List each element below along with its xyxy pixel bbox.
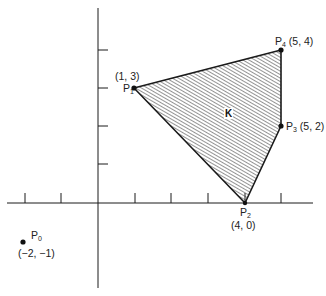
point-p3 bbox=[278, 123, 283, 128]
region-k-polygon bbox=[134, 50, 281, 203]
point-p0-coord: (−2, −1) bbox=[18, 248, 55, 259]
point-p1-coord: (1, 3) bbox=[115, 71, 140, 82]
region-k-label: K bbox=[224, 108, 233, 119]
point-p0-name: P0 bbox=[31, 230, 42, 242]
point-p2-coord: (4, 0) bbox=[231, 220, 256, 231]
y-ticks bbox=[98, 50, 108, 164]
point-p2-name: P2 bbox=[240, 207, 251, 219]
point-name: P bbox=[286, 120, 293, 132]
point-p2 bbox=[243, 201, 247, 205]
point-p0 bbox=[20, 239, 25, 244]
point-p1-name: P1 bbox=[123, 83, 134, 95]
point-coord: (5, 4) bbox=[289, 35, 314, 47]
point-name: P bbox=[123, 82, 130, 94]
point-p3-label: P3 (5, 2) bbox=[286, 121, 324, 133]
point-coord: (5, 2) bbox=[300, 120, 325, 132]
point-subscript: 2 bbox=[247, 212, 251, 219]
point-name: P bbox=[240, 206, 247, 218]
point-name: P bbox=[31, 229, 38, 241]
point-p4-label: P4 (5, 4) bbox=[275, 36, 313, 48]
point-subscript: 0 bbox=[38, 235, 42, 242]
point-p4 bbox=[278, 47, 283, 52]
point-subscript: 3 bbox=[293, 126, 297, 133]
point-subscript: 4 bbox=[282, 41, 286, 48]
point-name: P bbox=[275, 35, 282, 47]
point-subscript: 1 bbox=[130, 88, 134, 95]
